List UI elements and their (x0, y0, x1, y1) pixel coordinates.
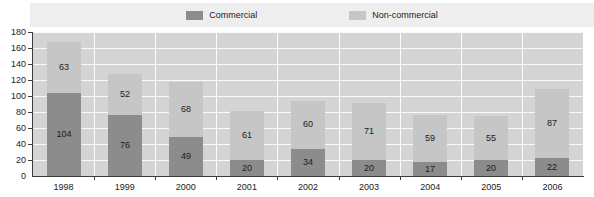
bar-segment-commercial[interactable]: 20 (474, 160, 508, 176)
stacked-bar-chart: Commercial Non-commercial 02040608010012… (0, 0, 594, 197)
bar-value-label: 17 (425, 165, 435, 174)
bar-segment-commercial[interactable]: 34 (291, 149, 325, 176)
x-axis-tick-label: 1998 (42, 183, 86, 192)
x-axis-tick-label: 2003 (347, 183, 391, 192)
legend-entry-non-commercial: Non-commercial (349, 11, 438, 20)
x-axis-tick-label: 2006 (530, 183, 574, 192)
y-axis-tick-mark (28, 112, 33, 113)
y-axis-tick-mark (28, 128, 33, 129)
y-axis-tick-mark (28, 32, 33, 33)
bar-segment-non-commercial[interactable]: 61 (230, 111, 264, 160)
y-axis-tick-label: 120 (0, 76, 26, 85)
bar-value-label: 104 (56, 130, 71, 139)
bar-value-label: 49 (181, 152, 191, 161)
y-axis-tick-label: 60 (0, 124, 26, 133)
bar-value-label: 60 (303, 120, 313, 129)
bar-value-label: 87 (547, 119, 557, 128)
y-axis-tick-label: 40 (0, 140, 26, 149)
legend-label-non-commercial: Non-commercial (372, 11, 438, 20)
gridline-vertical (94, 32, 95, 176)
bar-value-label: 20 (364, 164, 374, 173)
bar-segment-commercial[interactable]: 104 (47, 93, 81, 176)
x-axis-tick-mark (155, 177, 156, 180)
x-axis-tick-label: 2005 (469, 183, 513, 192)
y-axis-tick-label: 0 (0, 172, 26, 181)
gridline-vertical (461, 32, 462, 176)
bar-segment-non-commercial[interactable]: 60 (291, 101, 325, 149)
x-axis-tick-mark (400, 177, 401, 180)
gridline-vertical (339, 32, 340, 176)
bar-value-label: 76 (120, 141, 130, 150)
legend-swatch-commercial (186, 11, 203, 20)
y-axis-tick-label: 20 (0, 156, 26, 165)
bar-segment-non-commercial[interactable]: 68 (169, 82, 203, 136)
gridline-vertical (216, 32, 217, 176)
bar-group-2000[interactable]: 4968 (169, 32, 203, 176)
y-axis-tick-label: 140 (0, 60, 26, 69)
x-axis-line (32, 176, 584, 177)
x-axis-tick-mark (216, 177, 217, 180)
y-axis-tick-mark (28, 96, 33, 97)
x-axis-tick-label: 2001 (225, 183, 269, 192)
bar-value-label: 22 (547, 163, 557, 172)
bar-value-label: 59 (425, 134, 435, 143)
y-axis-tick-label: 180 (0, 28, 26, 37)
bar-segment-commercial[interactable]: 22 (535, 158, 569, 176)
legend-label-commercial: Commercial (209, 11, 257, 20)
legend-entry-commercial: Commercial (186, 11, 257, 20)
bar-segment-non-commercial[interactable]: 71 (352, 103, 386, 160)
bar-group-2001[interactable]: 2061 (230, 32, 264, 176)
bar-value-label: 20 (486, 164, 496, 173)
bar-group-2006[interactable]: 2287 (535, 32, 569, 176)
gridline-vertical (277, 32, 278, 176)
y-axis-tick-mark (28, 144, 33, 145)
x-axis-tick-mark (277, 177, 278, 180)
bar-group-2003[interactable]: 2071 (352, 32, 386, 176)
y-axis-tick-label: 80 (0, 108, 26, 117)
bar-group-2005[interactable]: 2055 (474, 32, 508, 176)
bar-value-label: 68 (181, 105, 191, 114)
y-axis-tick-mark (28, 160, 33, 161)
bar-segment-non-commercial[interactable]: 55 (474, 116, 508, 160)
bar-value-label: 20 (242, 164, 252, 173)
bar-segment-commercial[interactable]: 76 (108, 115, 142, 176)
y-axis-tick-mark (28, 80, 33, 81)
gridline-vertical (400, 32, 401, 176)
bar-value-label: 55 (486, 134, 496, 143)
bar-segment-commercial[interactable]: 20 (352, 160, 386, 176)
bar-segment-non-commercial[interactable]: 52 (108, 74, 142, 116)
gridline-vertical (155, 32, 156, 176)
x-axis-tick-mark (522, 177, 523, 180)
x-axis-tick-mark (339, 177, 340, 180)
bar-group-1999[interactable]: 7652 (108, 32, 142, 176)
bar-group-1998[interactable]: 10463 (47, 32, 81, 176)
bar-value-label: 61 (242, 131, 252, 140)
y-axis-labels: 020406080100120140160180 (0, 0, 26, 197)
bar-value-label: 52 (120, 90, 130, 99)
bar-group-2002[interactable]: 3460 (291, 32, 325, 176)
bar-segment-commercial[interactable]: 49 (169, 137, 203, 176)
y-axis-tick-mark (28, 64, 33, 65)
x-axis-tick-label: 2000 (164, 183, 208, 192)
bar-segment-non-commercial[interactable]: 63 (47, 42, 81, 92)
y-axis-tick-label: 160 (0, 44, 26, 53)
legend-swatch-non-commercial (349, 11, 366, 20)
bar-segment-non-commercial[interactable]: 59 (413, 115, 447, 162)
bar-value-label: 71 (364, 127, 374, 136)
bar-segment-commercial[interactable]: 17 (413, 162, 447, 176)
bar-value-label: 34 (303, 158, 313, 167)
bar-segment-commercial[interactable]: 20 (230, 160, 264, 176)
x-axis-tick-label: 2004 (408, 183, 452, 192)
plot-area: 1046376524968206134602071175920552287 (33, 32, 583, 176)
x-axis-tick-mark (94, 177, 95, 180)
y-axis-tick-label: 100 (0, 92, 26, 101)
bar-value-label: 63 (59, 63, 69, 72)
x-axis-tick-mark (461, 177, 462, 180)
x-axis-tick-label: 2002 (286, 183, 330, 192)
gridline-vertical (522, 32, 523, 176)
bar-group-2004[interactable]: 1759 (413, 32, 447, 176)
chart-legend: Commercial Non-commercial (30, 3, 594, 27)
y-axis-tick-mark (28, 48, 33, 49)
bar-segment-non-commercial[interactable]: 87 (535, 89, 569, 159)
x-axis-tick-label: 1999 (103, 183, 147, 192)
